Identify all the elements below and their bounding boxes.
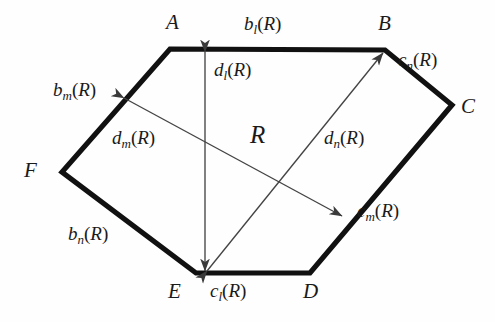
edge-label-b-n-base: b — [68, 223, 78, 244]
diameter-label-d-l-base: d — [214, 59, 224, 80]
hexagon-outline — [62, 49, 452, 273]
diameter-arrow-d-n — [207, 53, 383, 271]
edge-label-b-l-close-paren: ) — [275, 13, 281, 34]
edge-label-c-n-arg: R — [419, 49, 431, 70]
edge-label-c-m: cm(R) — [357, 201, 399, 223]
diameter-label-d-m-subscript: m — [122, 136, 131, 151]
edge-label-b-n-arg: R — [90, 223, 102, 244]
edge-label-c-n-close-paren: ) — [431, 49, 437, 70]
edge-label-b-m-subscript: m — [63, 88, 72, 103]
diameter-label-d-l-arg: R — [233, 59, 245, 80]
diameter-label-d-m-arg: R — [137, 127, 149, 148]
edge-label-b-m: bm(R) — [53, 80, 96, 102]
diameter-label-d-m-close-paren: ) — [149, 127, 155, 148]
vertex-label-C: C — [461, 96, 475, 117]
edge-label-c-m-arg: R — [381, 200, 393, 221]
diameter-arrows — [124, 52, 383, 271]
edge-label-c-l: cl(R) — [210, 281, 246, 303]
edge-label-b-m-base: b — [53, 79, 63, 100]
vertex-label-F: F — [24, 160, 37, 181]
edge-label-b-m-close-paren: ) — [90, 79, 96, 100]
vertex-label-A: A — [166, 12, 179, 33]
diameter-label-d-n-arg: R — [346, 127, 358, 148]
vertex-label-D: D — [303, 281, 318, 302]
vertex-label-B: B — [378, 13, 391, 34]
edge-label-b-n-close-paren: ) — [102, 223, 108, 244]
vertex-label-E: E — [168, 281, 181, 302]
edge-label-b-l: bl(R) — [244, 14, 281, 36]
diameter-label-d-n-base: d — [324, 127, 334, 148]
edge-label-c-l-arg: R — [228, 280, 240, 301]
edge-label-c-l-close-paren: ) — [240, 280, 246, 301]
diameter-label-d-l: dl(R) — [214, 60, 251, 82]
diameter-arrow-d-m — [124, 98, 342, 216]
edge-label-c-m-subscript: m — [365, 209, 374, 224]
diameter-label-d-n-close-paren: ) — [358, 127, 364, 148]
region-label: R — [250, 122, 265, 147]
edge-label-c-m-close-paren: ) — [393, 200, 399, 221]
edge-label-c-n: cn(R) — [398, 50, 437, 72]
geometry-figure: A B C D E F bl(R) cn(R) cm(R) cl(R) bn(R… — [0, 0, 495, 322]
diameter-label-d-m-base: d — [112, 127, 122, 148]
diameter-label-d-l-close-paren: ) — [245, 59, 251, 80]
diameter-label-d-m: dm(R) — [112, 128, 155, 150]
edge-label-b-l-base: b — [244, 13, 254, 34]
edge-label-b-l-arg: R — [263, 13, 275, 34]
diameter-label-d-n: dn(R) — [324, 128, 364, 150]
edge-label-b-n: bn(R) — [68, 224, 108, 246]
edge-label-b-m-arg: R — [78, 79, 90, 100]
